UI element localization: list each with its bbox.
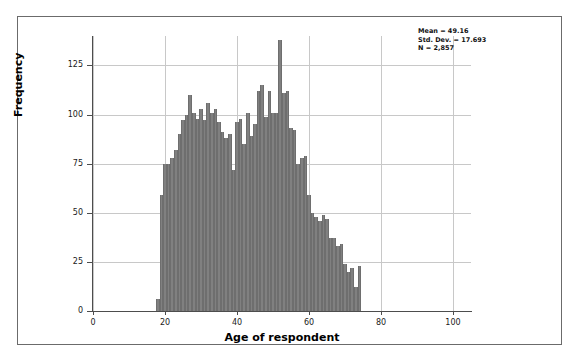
y-axis-tick: 100 (87, 115, 92, 116)
y-axis-tick-label: 125 (68, 59, 83, 70)
stat-mean: Mean = 49.16 (418, 27, 486, 36)
x-axis-tick-label: 100 (445, 318, 460, 327)
x-axis-tick-label: 60 (304, 318, 314, 327)
statistics-annotation: Mean = 49.16 Std. Dev. = 17.693 N = 2,85… (418, 27, 486, 53)
y-axis-tick: 0 (87, 311, 92, 312)
x-axis-tick (93, 311, 94, 315)
y-axis-tick-label: 25 (73, 256, 83, 267)
stat-std-dev: Std. Dev. = 17.693 (418, 36, 486, 45)
stat-n: N = 2,857 (418, 44, 486, 53)
y-axis-tick: 75 (87, 164, 92, 165)
x-axis-tick (453, 311, 454, 315)
x-axis-tick-label: 20 (160, 318, 170, 327)
y-axis-tick-label: 100 (68, 109, 83, 120)
x-axis-tick-label: 0 (90, 318, 95, 327)
plot-area (93, 36, 471, 311)
x-axis-tick (381, 311, 382, 315)
x-axis-tick-label: 80 (376, 318, 386, 327)
y-axis-tick: 25 (87, 262, 92, 263)
y-axis-tick-label: 75 (73, 158, 83, 169)
x-axis-line (92, 311, 472, 312)
x-axis-tick (237, 311, 238, 315)
y-axis-tick: 125 (87, 65, 92, 66)
y-axis-tick-label: 50 (73, 207, 83, 218)
x-axis-title: Age of respondent (93, 331, 471, 344)
x-axis-tick (309, 311, 310, 315)
y-axis-tick: 50 (87, 213, 92, 214)
y-axis-title: Frequency (12, 53, 25, 117)
histogram-bar (358, 266, 362, 311)
histogram-bars (93, 36, 471, 311)
x-axis-tick-label: 40 (232, 318, 242, 327)
chart-frame: Frequency Age of respondent Mean = 49.16… (17, 16, 562, 345)
x-axis-tick (165, 311, 166, 315)
y-axis-tick-label: 0 (78, 305, 83, 316)
